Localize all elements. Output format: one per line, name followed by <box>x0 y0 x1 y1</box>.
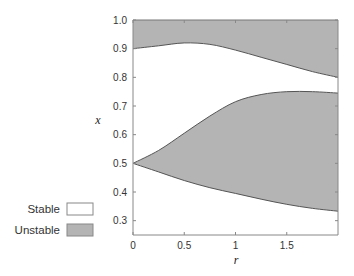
y-tick-label: 0.5 <box>113 158 127 169</box>
plot-area <box>133 20 338 211</box>
phase-diagram-chart: 00.511.5 0.30.40.50.60.70.80.91.0 r x St… <box>0 0 354 276</box>
y-tick-label: 0.6 <box>113 129 127 140</box>
y-tick-label: 0.9 <box>113 43 127 54</box>
legend: Stable Unstable <box>15 203 93 236</box>
y-tick-label: 0.4 <box>113 187 127 198</box>
x-tick-label: 0 <box>130 240 136 251</box>
legend-label-unstable: Unstable <box>15 224 60 236</box>
y-tick-label: 0.8 <box>113 72 127 83</box>
legend-swatch-unstable <box>67 224 93 236</box>
y-axis-label: x <box>94 113 101 127</box>
y-tick-label: 0.7 <box>113 101 127 112</box>
unstable-region-upper <box>133 20 338 77</box>
x-tick-label: 0.5 <box>177 240 191 251</box>
x-tick-label: 1.5 <box>280 240 294 251</box>
x-axis-label: r <box>234 253 239 267</box>
legend-swatch-stable <box>67 203 93 215</box>
x-tick-label: 1 <box>233 240 239 251</box>
legend-label-stable: Stable <box>27 203 60 215</box>
y-tick-label: 0.3 <box>113 215 127 226</box>
y-tick-label: 1.0 <box>113 15 127 26</box>
